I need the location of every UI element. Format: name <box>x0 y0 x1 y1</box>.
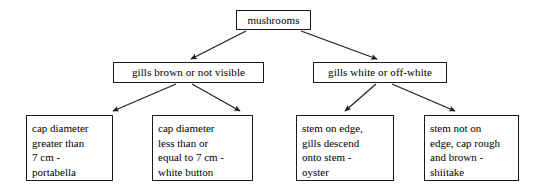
node-oyster-line-4: oyster <box>302 165 393 180</box>
node-oyster-line-3: onto stem - <box>302 150 393 165</box>
node-shiitake-line-4: shiitake <box>430 165 518 180</box>
node-shiitake-line-1: stem not on <box>430 121 518 136</box>
node-white-button[interactable]: cap diameter less than or equal to 7 cm … <box>152 115 253 181</box>
edge-gills-white-to-shiitake <box>392 84 455 111</box>
node-shiitake-line-3: and brown - <box>430 150 518 165</box>
decision-tree-diagram: mushrooms gills brown or not visible gil… <box>0 0 549 192</box>
node-oyster-line-1: stem on edge, <box>302 121 393 136</box>
node-shiitake[interactable]: stem not on edge, cap rough and brown - … <box>424 115 519 181</box>
node-portabella-line-4: portabella <box>32 165 112 180</box>
node-gills-brown-label: gills brown or not visible <box>132 65 245 80</box>
node-gills-white[interactable]: gills white or off-white <box>313 62 447 83</box>
node-oyster[interactable]: stem on edge, gills descend onto stem - … <box>296 115 394 181</box>
node-white-button-line-4: white button <box>158 165 252 180</box>
edge-gills-brown-to-portabella <box>113 84 176 111</box>
node-shiitake-line-2: edge, cap rough <box>430 136 518 151</box>
node-white-button-line-2: less than or <box>158 136 252 151</box>
edge-mushrooms-to-gills-white <box>301 31 377 59</box>
node-portabella-line-1: cap diameter <box>32 121 112 136</box>
node-portabella-line-2: greater than <box>32 136 112 151</box>
edge-mushrooms-to-gills-brown <box>191 31 246 59</box>
edge-gills-white-to-oyster <box>345 84 376 111</box>
node-white-button-line-3: equal to 7 cm - <box>158 150 252 165</box>
node-white-button-line-1: cap diameter <box>158 121 252 136</box>
node-oyster-line-2: gills descend <box>302 136 393 151</box>
node-mushrooms-label: mushrooms <box>247 13 299 28</box>
node-portabella[interactable]: cap diameter greater than 7 cm - portabe… <box>26 115 113 181</box>
node-gills-white-label: gills white or off-white <box>328 65 432 80</box>
node-mushrooms[interactable]: mushrooms <box>236 10 311 30</box>
node-portabella-line-3: 7 cm - <box>32 150 112 165</box>
node-gills-brown[interactable]: gills brown or not visible <box>113 62 264 83</box>
edge-gills-brown-to-white-button <box>192 84 240 111</box>
